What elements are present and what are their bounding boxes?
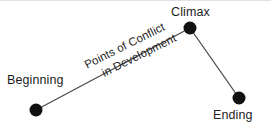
beginning-point-marker[interactable] [30, 104, 43, 117]
ending-label: Ending [213, 109, 253, 122]
falling-action-line [190, 28, 239, 98]
plot-diagram-canvas: Beginning Climax Ending Points of Confli… [0, 0, 271, 130]
beginning-label: Beginning [7, 74, 64, 87]
ending-point-marker[interactable] [233, 92, 246, 105]
